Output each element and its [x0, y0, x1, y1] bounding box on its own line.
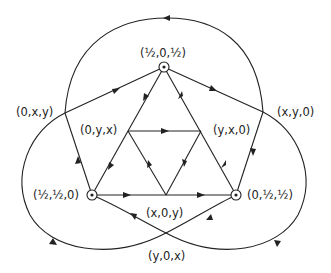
- arrow-icon: [112, 88, 120, 94]
- arrow-icon: [130, 213, 137, 220]
- outer-right-arc: [92, 112, 306, 249]
- label-bottom-left: (½,½,0): [33, 188, 79, 202]
- label-top: (½,0,½): [140, 46, 186, 60]
- node-top-marker: [159, 62, 169, 72]
- arrow-icon: [209, 85, 217, 91]
- label-inner-right: (y,x,0): [213, 123, 250, 137]
- label-inner-left: (0,y,x): [80, 123, 117, 137]
- node-bottom-left-marker: [87, 190, 97, 200]
- arrow-icon: [123, 192, 131, 198]
- edge-inner-bottom-to-inner-left: [128, 131, 166, 195]
- arrow-icon: [206, 214, 213, 220]
- node-bottom-right-marker: [231, 190, 241, 200]
- label-inner-bottom: (x,0,y): [146, 206, 183, 220]
- label-left-outer: (0,x,y): [16, 105, 53, 119]
- orbit-graph-diagram: (½,0,½) (0,x,y) (x,y,0) (0,y,x) (y,x,0) …: [0, 0, 331, 273]
- label-right-outer: (x,y,0): [277, 105, 314, 119]
- arrow-icon: [182, 159, 187, 167]
- arrow-icon: [274, 240, 281, 247]
- arrow-icon: [197, 192, 205, 198]
- arrow-icon: [163, 15, 170, 21]
- arrow-icon: [250, 148, 256, 156]
- label-bottom-right: (0,½,½): [247, 188, 293, 202]
- arrow-icon: [161, 128, 169, 134]
- arrow-icon: [108, 162, 114, 170]
- arrow-icon: [221, 160, 226, 168]
- label-bottom-cross: (y,0,x): [148, 249, 185, 263]
